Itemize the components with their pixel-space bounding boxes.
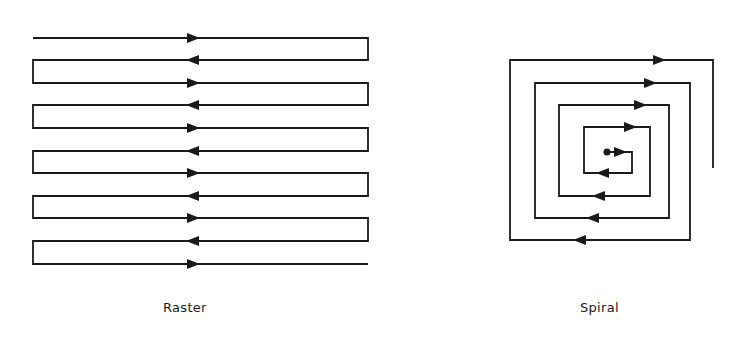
arrow-right-icon bbox=[187, 78, 200, 88]
spiral-scan-path bbox=[510, 55, 713, 245]
arrow-right-icon bbox=[187, 123, 200, 133]
arrow-left-icon bbox=[596, 168, 609, 178]
scan-pattern-diagram bbox=[0, 0, 738, 343]
arrow-right-icon bbox=[624, 122, 637, 132]
arrow-left-icon bbox=[586, 213, 599, 223]
start-dot-icon bbox=[604, 149, 611, 156]
arrow-right-icon bbox=[614, 147, 627, 157]
arrow-left-icon bbox=[186, 236, 199, 246]
arrow-left-icon bbox=[186, 191, 199, 201]
arrow-right-icon bbox=[187, 168, 200, 178]
arrow-left-icon bbox=[186, 55, 199, 65]
arrow-right-icon bbox=[634, 100, 647, 110]
arrow-right-icon bbox=[644, 78, 657, 88]
arrow-left-icon bbox=[592, 191, 605, 201]
arrow-right-icon bbox=[653, 55, 666, 65]
raster-caption: Raster bbox=[163, 300, 207, 315]
arrow-right-icon bbox=[187, 213, 200, 223]
arrow-left-icon bbox=[186, 100, 199, 110]
arrow-right-icon bbox=[187, 33, 200, 43]
arrow-left-icon bbox=[573, 235, 586, 245]
raster-scan-path bbox=[33, 33, 368, 269]
arrow-left-icon bbox=[186, 146, 199, 156]
arrow-right-icon bbox=[187, 259, 200, 269]
spiral-caption: Spiral bbox=[580, 300, 619, 315]
